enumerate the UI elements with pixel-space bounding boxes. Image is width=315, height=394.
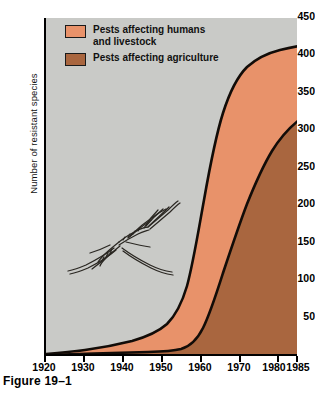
plot-area: Pests affecting humans and livestock Pes…	[44, 18, 297, 356]
x-tick-label-1940: 1940	[102, 361, 142, 373]
legend-item-humans-livestock: Pests affecting humans and livestock	[65, 24, 219, 47]
legend-swatch-agriculture	[65, 53, 86, 66]
x-tick-label-1920: 1920	[24, 361, 64, 373]
x-tick-label-1930: 1930	[63, 361, 103, 373]
legend-label-agriculture: Pests affecting agriculture	[93, 52, 219, 64]
figure-caption: Figure 19–1	[3, 374, 72, 388]
y-axis-title-text: Number of resistant species	[28, 49, 39, 219]
legend-label-humans-livestock: Pests affecting humans and livestock	[93, 24, 205, 47]
legend: Pests affecting humans and livestock Pes…	[65, 24, 219, 71]
mosquito-icon	[62, 190, 187, 295]
x-tick-label-1950: 1950	[141, 361, 181, 373]
figure-container: Number of resistant species 450 400 350 …	[0, 0, 315, 394]
x-tick-label-1970: 1970	[219, 361, 259, 373]
x-tick-label-1960: 1960	[180, 361, 220, 373]
legend-swatch-humans-livestock	[65, 25, 86, 38]
x-tick-label-1985: 1985	[278, 361, 315, 373]
legend-item-agriculture: Pests affecting agriculture	[65, 52, 219, 66]
